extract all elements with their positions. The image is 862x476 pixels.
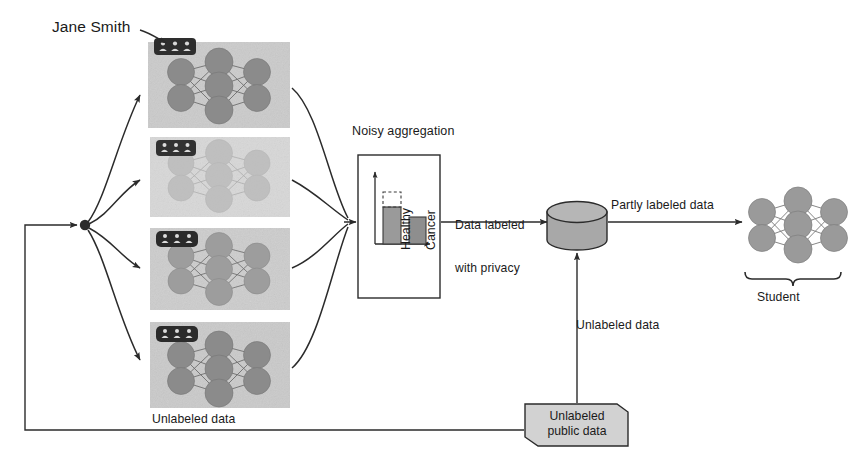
fanout-edges <box>88 95 140 360</box>
label-data-labeled-with-privacy: Data labeled with privacy <box>455 189 525 304</box>
label-data-labeled-line2: with privacy <box>455 261 525 275</box>
label-data-labeled-line1: Data labeled <box>455 218 525 232</box>
fanin-edges <box>292 88 356 368</box>
people-icon-teacher-3 <box>156 231 198 247</box>
people-icon-teacher-4 <box>156 326 198 342</box>
edge-teacher-4-to-agg <box>292 227 348 368</box>
label-unlabeled-public-data-line1: Unlabeled <box>533 409 621 424</box>
label-noisy-aggregation: Noisy aggregation <box>352 124 454 139</box>
people-icon-teacher-2 <box>156 140 196 156</box>
edge-hub-to-teacher-2 <box>89 180 140 224</box>
label-student: Student <box>757 290 800 304</box>
diagram-canvas: Jane Smith Noisy aggregation Data labele… <box>0 0 862 476</box>
label-unlabeled-public-data-line2: public data <box>533 424 621 439</box>
edge-teacher-3-to-agg <box>292 224 348 268</box>
label-unlabeled-data-vertical: Unlabeled data <box>576 318 659 332</box>
label-unlabeled-data-horizontal: Unlabeled data <box>152 412 235 426</box>
label-partly-labeled-data: Partly labeled data <box>611 198 714 212</box>
jane-smith-pointer <box>140 30 166 43</box>
chart-tick-healthy: Healthy <box>399 208 413 250</box>
label-jane-smith: Jane Smith <box>52 18 131 36</box>
student-brace <box>745 272 841 286</box>
label-unlabeled-public-data: Unlabeled public data <box>533 409 621 440</box>
chart-tick-cancer: Cancer <box>424 210 438 250</box>
student-network <box>749 187 848 263</box>
bar-healthy-noise-overlay <box>383 192 401 207</box>
edge-hub-to-teacher-4 <box>88 230 140 360</box>
database-cylinder <box>547 202 607 251</box>
